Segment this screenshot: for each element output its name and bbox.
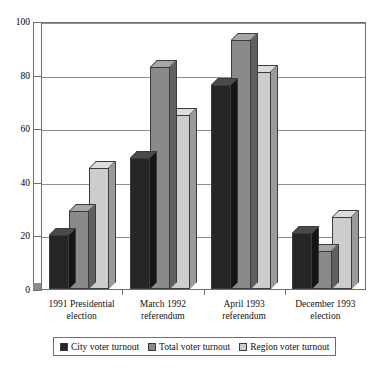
x-tick-3 bbox=[285, 290, 286, 295]
bar-side-face bbox=[271, 65, 278, 289]
y-tick-label-0: 0 bbox=[0, 285, 30, 295]
x-category-label-line: election bbox=[275, 310, 375, 322]
bar-front-face bbox=[130, 158, 150, 289]
x-tick-2 bbox=[204, 290, 205, 295]
plot-area bbox=[41, 22, 366, 290]
bar-side-face bbox=[69, 228, 76, 289]
legend-swatch-region-icon bbox=[239, 343, 247, 351]
bar-side-face bbox=[312, 226, 319, 289]
legend-label-total: Total voter turnout bbox=[159, 342, 230, 352]
chart-legend: City voter turnout Total voter turnout R… bbox=[53, 337, 336, 356]
y-tick-40 bbox=[33, 183, 41, 184]
bar-side-face bbox=[231, 78, 238, 289]
y-tick-100 bbox=[33, 22, 41, 23]
bar-2-0 bbox=[211, 85, 231, 289]
y-tick-label-100: 100 bbox=[0, 17, 30, 27]
bar-front-face bbox=[211, 85, 231, 289]
legend-swatch-total-icon bbox=[148, 343, 156, 351]
legend-swatch-city-icon bbox=[60, 343, 68, 351]
gridline-60 bbox=[42, 130, 365, 131]
bar-side-face bbox=[170, 60, 177, 289]
bar-1-0 bbox=[130, 158, 150, 289]
x-category-label-3: December 1993election bbox=[275, 298, 375, 322]
y-tick-label-40: 40 bbox=[0, 178, 30, 188]
legend-label-city: City voter turnout bbox=[71, 342, 139, 352]
y-tick-0 bbox=[33, 290, 41, 291]
bar-chart: 020406080100 1991 PresidentialelectionMa… bbox=[0, 0, 385, 377]
bar-side-face bbox=[109, 161, 116, 289]
gridline-80 bbox=[42, 77, 365, 78]
legend-label-region: Region voter turnout bbox=[250, 342, 329, 352]
x-tick-1 bbox=[122, 290, 123, 295]
y-tick-label-60: 60 bbox=[0, 124, 30, 134]
bar-3-0 bbox=[292, 233, 312, 289]
x-category-label-line: December 1993 bbox=[275, 298, 375, 310]
y-tick-20 bbox=[33, 236, 41, 237]
y-tick-label-20: 20 bbox=[0, 231, 30, 241]
bar-side-face bbox=[251, 33, 258, 289]
bar-front-face bbox=[49, 235, 69, 289]
legend-item-total: Total voter turnout bbox=[148, 342, 230, 352]
gridline-100 bbox=[42, 23, 365, 24]
y-tick-80 bbox=[33, 76, 41, 77]
legend-item-city: City voter turnout bbox=[60, 342, 139, 352]
y-tick-60 bbox=[33, 129, 41, 130]
bar-side-face bbox=[89, 204, 96, 289]
bar-0-0 bbox=[49, 235, 69, 289]
bar-front-face bbox=[292, 233, 312, 289]
y-tick-label-80: 80 bbox=[0, 71, 30, 81]
bar-side-face bbox=[352, 210, 359, 289]
bar-side-face bbox=[190, 108, 197, 289]
legend-item-region: Region voter turnout bbox=[239, 342, 329, 352]
bar-side-face bbox=[150, 151, 157, 289]
